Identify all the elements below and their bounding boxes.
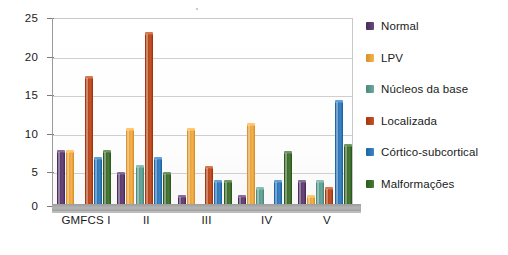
bar[interactable] (344, 146, 352, 204)
bar-highlight (155, 159, 157, 204)
bar-highlight (146, 34, 148, 204)
legend-label: LPV (381, 52, 403, 64)
image-speck (196, 8, 198, 10)
bar[interactable] (136, 167, 144, 204)
legend-swatch-icon (366, 85, 374, 93)
bar-highlight (95, 159, 97, 204)
legend: NormalLPVNúcleos da baseLocalizadaCórtic… (366, 20, 506, 220)
bar-highlight (127, 130, 129, 204)
x-axis-label-4: IV (261, 214, 272, 226)
legend-swatch-icon (366, 22, 374, 30)
bar[interactable] (325, 189, 333, 204)
bar-chart: 25 20 15 10 5 0 GMFCS IIIIIIIVV NormalLP… (0, 0, 508, 255)
legend-label: Malformações (381, 178, 454, 190)
legend-item-4[interactable]: Localizada (366, 115, 437, 127)
bar-group-1 (57, 18, 111, 204)
bar-group-3 (178, 18, 232, 204)
y-axis-label-5: 5 (31, 166, 38, 178)
bar[interactable] (214, 182, 222, 204)
bar[interactable] (178, 197, 186, 204)
legend-item-1[interactable]: Normal (366, 20, 419, 32)
x-axis-label-2: II (143, 214, 150, 226)
bar[interactable] (94, 159, 102, 204)
bar[interactable] (154, 159, 162, 204)
bar-highlight (345, 146, 347, 204)
bar[interactable] (307, 197, 315, 204)
bar-highlight (164, 174, 166, 204)
bar-group-4 (238, 18, 292, 204)
legend-label: Córtico-subcortical (381, 146, 478, 158)
bar-highlight (137, 167, 139, 204)
bar-highlight (336, 102, 338, 204)
bar-highlight (118, 174, 120, 204)
bar-highlight (206, 168, 208, 204)
legend-item-2[interactable]: LPV (366, 52, 403, 64)
x-axis: GMFCS IIIIIIIVV (52, 214, 361, 234)
bar[interactable] (57, 152, 65, 204)
y-axis-label-25: 25 (25, 12, 38, 24)
bar-highlight (248, 125, 250, 204)
bar[interactable] (103, 152, 111, 204)
bar[interactable] (145, 34, 153, 204)
bar[interactable] (335, 102, 343, 204)
legend-swatch-icon (366, 117, 374, 125)
legend-item-6[interactable]: Malformações (366, 178, 454, 190)
bar[interactable] (298, 182, 306, 204)
bar[interactable] (284, 153, 292, 204)
y-axis-label-20: 20 (25, 51, 38, 63)
bar-group-2 (117, 18, 171, 204)
bar-highlight (104, 152, 106, 204)
bar[interactable] (163, 174, 171, 204)
bar[interactable] (238, 197, 246, 204)
y-axis-label-0: 0 (31, 200, 38, 212)
bar[interactable] (85, 78, 93, 204)
legend-item-5[interactable]: Córtico-subcortical (366, 146, 478, 158)
y-axis-label-10: 10 (25, 128, 38, 140)
chart-floor-edge (52, 211, 361, 213)
bar[interactable] (187, 130, 195, 204)
bar-highlight (275, 182, 277, 204)
bar-highlight (257, 189, 259, 204)
x-axis-label-1: GMFCS I (61, 214, 110, 226)
x-axis-label-5: V (323, 214, 331, 226)
x-axis-label-3: III (201, 214, 211, 226)
bar[interactable] (247, 125, 255, 204)
bar-highlight (326, 189, 328, 204)
bar[interactable] (205, 168, 213, 204)
bar-highlight (308, 197, 310, 204)
legend-swatch-icon (366, 54, 374, 62)
legend-swatch-icon (366, 148, 374, 156)
bar[interactable] (274, 182, 282, 204)
bar[interactable] (66, 152, 74, 204)
bar-highlight (317, 182, 319, 204)
bar-highlight (239, 197, 241, 204)
bars-layer (52, 18, 353, 204)
y-axis-label-15: 15 (25, 89, 38, 101)
bar[interactable] (126, 130, 134, 204)
bar-highlight (285, 153, 287, 204)
legend-item-3[interactable]: Núcleos da base (366, 83, 468, 95)
bar-highlight (215, 182, 217, 204)
bar-highlight (58, 152, 60, 204)
legend-label: Localizada (381, 115, 437, 127)
bar[interactable] (117, 174, 125, 204)
legend-swatch-icon (366, 180, 374, 188)
bar-highlight (188, 130, 190, 204)
legend-label: Núcleos da base (381, 83, 468, 95)
bar[interactable] (224, 182, 232, 204)
bar-highlight (67, 152, 69, 204)
legend-label: Normal (381, 20, 419, 32)
bar[interactable] (256, 189, 264, 204)
bar-highlight (179, 197, 181, 204)
bar-group-5 (298, 18, 352, 204)
bar-highlight (86, 78, 88, 204)
bar[interactable] (316, 182, 324, 204)
bar-highlight (299, 182, 301, 204)
bar-highlight (225, 182, 227, 204)
